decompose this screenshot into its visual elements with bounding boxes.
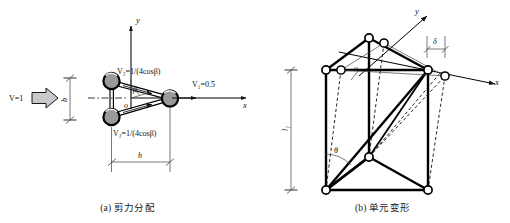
- panel-a-diagram: y x β: [0, 0, 255, 223]
- panel-a-origin-label: o: [124, 101, 128, 110]
- panel-b-diagram: l₁ δ y x o: [255, 0, 510, 223]
- panel-a-v2-top-label: V₂=1/(4cosβ): [117, 67, 161, 76]
- panel-a-dim-vertical: b: [60, 75, 77, 124]
- panel-a-v1-label: V₁=0.5: [192, 80, 215, 89]
- panel-b-dim-height-label: l₁: [281, 126, 290, 131]
- panel-b-node-displaced-left: [337, 66, 345, 74]
- panel-a-v2-bottom-label: V₂=1/(4cosβ): [113, 129, 157, 138]
- panel-b-delta-label: δ: [433, 37, 437, 46]
- panel-a-y-axis: y: [131, 15, 140, 109]
- panel-b-dim-height: l₁: [281, 67, 298, 194]
- panel-b-node-displaced-right: [441, 72, 449, 80]
- panel-a-input-force: V=1: [9, 88, 58, 108]
- panel-b-x-axis-label: x: [494, 77, 499, 87]
- panel-a-dim-vertical-label: b: [60, 98, 69, 102]
- panel-a-angle-label: β: [132, 85, 137, 94]
- panel-a-input-force-label: V=1: [9, 94, 23, 103]
- panel-a-dim-horizontal-label: h: [138, 151, 142, 160]
- panel-b-node-bottom-left: [322, 186, 330, 194]
- panel-a-nodes: [103, 73, 178, 125]
- panel-a-y-axis-label: y: [135, 15, 140, 25]
- panel-b-node-top-left: [322, 66, 330, 74]
- panel-a-angle-beta: β: [131, 80, 150, 98]
- panel-b-top-face: [326, 38, 428, 157]
- panel-b-node-displaced-apex: [380, 39, 388, 47]
- panel-b-node-top-apex: [365, 34, 373, 42]
- panel-b-node-bottom-apex: [365, 153, 373, 161]
- panel-b-node-top-right: [424, 66, 432, 74]
- panel-a-x-axis: x: [131, 98, 247, 110]
- panel-b-caption: (b) 单元变形: [255, 200, 510, 214]
- panel-b-dim-delta: δ: [424, 36, 449, 58]
- panel-b-node-bottom-right: [424, 186, 432, 194]
- panel-b-angle-label: θ: [334, 146, 338, 155]
- panel-a-caption: (a) 剪力分配: [0, 200, 255, 214]
- panel-a-x-axis-label: x: [242, 100, 247, 110]
- figure-root: y x β: [0, 0, 510, 223]
- panel-b-y-axis-label: y: [414, 6, 419, 16]
- panel-b-diagonals: [326, 70, 428, 190]
- panel-a-block-arrow-icon: [32, 88, 58, 108]
